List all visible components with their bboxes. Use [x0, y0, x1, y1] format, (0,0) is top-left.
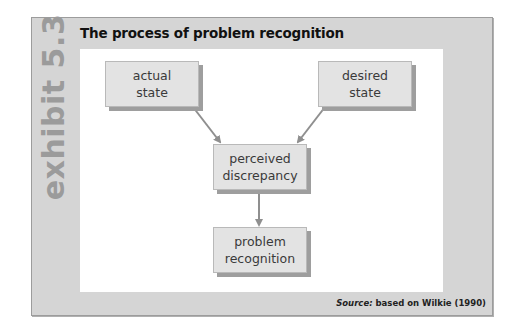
- source-text: based on Wilkie (1990): [373, 298, 486, 308]
- arrow-actual-to-discrepancy: [193, 107, 220, 142]
- node-desired-state: desired state: [318, 61, 412, 107]
- node-perceived-discrepancy: perceived discrepancy: [213, 144, 307, 190]
- node-problem-recognition: problem recognition: [213, 227, 307, 273]
- node-actual-state: actual state: [105, 61, 199, 107]
- node-perceived-discrepancy-line2: discrepancy: [222, 167, 297, 184]
- node-problem-recognition-line2: recognition: [225, 250, 295, 267]
- node-problem-recognition-line1: problem: [234, 233, 286, 250]
- node-perceived-discrepancy-line1: perceived: [229, 150, 291, 167]
- node-desired-state-line2: state: [349, 84, 381, 101]
- node-actual-state-line2: state: [136, 84, 168, 101]
- node-actual-state-line1: actual: [133, 67, 172, 84]
- source-citation: Source: based on Wilkie (1990): [336, 298, 486, 308]
- source-prefix: Source:: [336, 298, 372, 308]
- node-desired-state-line1: desired: [342, 67, 388, 84]
- arrow-desired-to-discrepancy: [298, 107, 325, 142]
